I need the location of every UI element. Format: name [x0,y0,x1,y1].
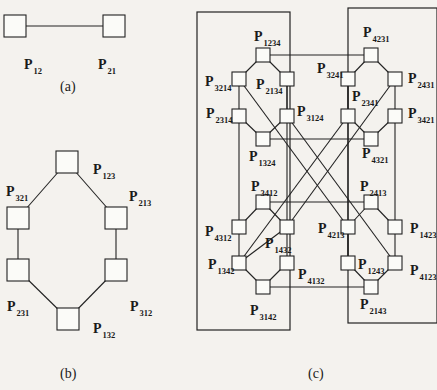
label-p321: P321 [6,185,28,203]
node-p123 [56,151,78,173]
caption-c: (c) [308,367,324,381]
label-p3142: P3142 [250,304,277,322]
label-p231: P231 [7,300,29,318]
node-p1234 [256,48,270,62]
node-p21 [103,15,125,37]
label-p1342: P1342 [208,258,235,276]
label-p1423: P1423 [410,222,437,240]
caption-a: (a) [60,80,76,94]
node-p4132 [280,256,294,270]
node-p1324 [256,132,270,146]
label-p4312: P4312 [205,225,232,243]
node-p2143 [364,280,378,294]
caption-b: (b) [60,367,76,381]
node-p4123 [388,256,402,270]
label-p4321: P4321 [362,147,389,165]
node-p1432 [280,220,294,234]
label-p132: P132 [93,322,115,340]
label-p2134: P2134 [256,78,283,96]
node-p3214 [232,72,246,86]
label-p3412: P3412 [251,180,278,198]
node-p213 [105,207,127,229]
label-p1234: P1234 [254,30,281,48]
label-p4231: P4231 [363,26,390,44]
label-p4213: P4213 [318,222,345,240]
node-p4321 [364,132,378,146]
label-p123: P123 [93,163,115,181]
label-p213: P213 [129,190,151,208]
node-p312 [105,259,127,281]
node-p3124 [280,109,294,123]
label-p3214: P3214 [205,75,232,93]
node-p2341 [341,109,355,123]
node-p3142 [256,280,270,294]
partition-frame-left [197,12,290,330]
label-p2431: P2431 [408,72,435,90]
label-p12: P12 [24,58,42,76]
label-p4123: P4123 [410,264,437,282]
node-p3421 [388,109,402,123]
node-p2431 [388,72,402,86]
label-p1243: P1243 [358,258,385,276]
node-p2314 [232,109,246,123]
node-p231 [7,259,29,281]
node-p4312 [232,220,246,234]
label-p2341: P2341 [352,90,379,108]
node-p321 [7,207,29,229]
node-p1423 [388,220,402,234]
label-p3124: P3124 [297,105,324,123]
node-p12 [4,15,26,37]
label-p4132: P4132 [298,268,325,286]
label-p3241: P3241 [317,62,344,80]
label-p312: P312 [130,300,152,318]
node-p132 [57,308,79,330]
node-p4231 [364,48,378,62]
node-p1243 [341,256,355,270]
label-p2413: P2413 [360,180,387,198]
label-p21: P21 [98,58,116,76]
label-p2143: P2143 [360,298,387,316]
label-p1432: P1432 [265,237,292,255]
label-p1324: P1324 [249,150,276,168]
label-p2314: P2314 [206,107,233,125]
label-p3421: P3421 [408,107,435,125]
